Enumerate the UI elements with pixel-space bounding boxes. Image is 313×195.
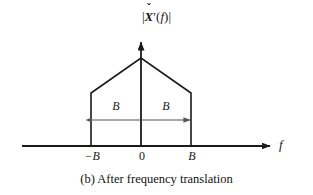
hat-accent-icon: ˇ bbox=[145, 3, 154, 15]
spectrum-symbol: Xˇ bbox=[145, 10, 154, 23]
spectrum-plot bbox=[0, 0, 313, 175]
bandwidth-label-left: B bbox=[96, 100, 136, 112]
x-tick-label-negative-b: −B bbox=[72, 150, 112, 162]
x-tick-label-positive-b: B bbox=[172, 150, 212, 162]
bandwidth-label-right: B bbox=[146, 100, 186, 112]
figure-container: |Xˇ′(f)| −B 0 B f B B (b) After frequenc… bbox=[0, 0, 313, 195]
abs-bar-close: | bbox=[168, 9, 171, 24]
x-tick-label-origin: 0 bbox=[122, 150, 162, 162]
figure-caption: (b) After frequency translation bbox=[0, 172, 313, 187]
y-axis-label: |Xˇ′(f)| bbox=[0, 10, 313, 23]
x-axis-label: f bbox=[279, 138, 283, 151]
